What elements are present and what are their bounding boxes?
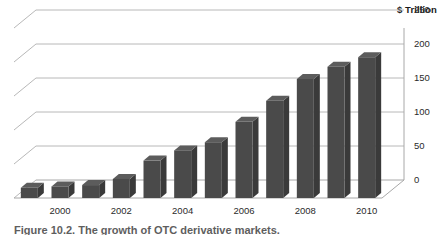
x-tick-label: 2000 [49,205,70,216]
plot-area [0,18,443,208]
bar [328,62,351,198]
bar [82,180,105,198]
figure-caption: Figure 10.2. The growth of OTC derivativ… [14,224,439,235]
chart-figure: $ Trillion 250200150100500 2000200220042… [0,0,443,235]
bar [236,117,259,198]
bar [358,52,381,198]
y-tick-label: 50 [414,141,425,151]
bar-chart-svg [0,18,443,218]
bar [21,183,44,198]
y-tick-label: 250 [414,5,430,15]
y-tick-label: 200 [414,39,430,49]
bar [113,174,136,198]
bar [205,137,228,198]
bar [52,181,75,198]
x-tick-label: 2006 [233,205,254,216]
y-tick-label: 0 [414,175,419,185]
x-tick-label: 2010 [356,205,377,216]
bar [266,96,289,198]
y-tick-label: 150 [414,73,430,83]
x-tick-label: 2004 [172,205,193,216]
bar [174,145,197,198]
x-tick-label: 2008 [295,205,316,216]
x-tick-label: 2002 [111,205,132,216]
y-tick-label: 100 [414,107,430,117]
bar [297,74,320,198]
bar [144,156,167,198]
